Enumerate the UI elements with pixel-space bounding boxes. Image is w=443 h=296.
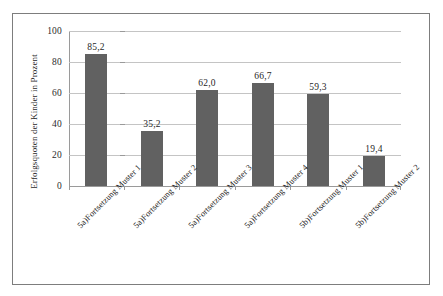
bar-5[interactable]: 19,4 [363,156,385,186]
y-tick-mark-60 [120,93,125,94]
bar-4[interactable]: 59,3 [307,94,329,186]
y-tick-label-60: 60 [52,88,62,98]
y-tick-label-40: 40 [52,119,62,129]
bar-3[interactable]: 66,7 [252,83,274,186]
y-tick-label-0: 0 [57,181,62,191]
y-axis-title: Erfolgsquoten der Kinder in Prozent [29,44,43,199]
y-tick-label-20: 20 [52,150,62,160]
y-tick-label-80: 80 [52,57,62,67]
bar-0[interactable]: 85,2 [85,54,107,186]
bar-2[interactable]: 62,0 [196,90,218,186]
bar-value-5: 19,4 [365,144,382,154]
gridline-20 [69,155,401,156]
bar-1[interactable]: 35,2 [141,131,163,186]
plot-area: 100 80 60 40 20 0 [69,31,401,186]
y-tick-mark-40 [120,124,125,125]
bar-value-0: 85,2 [87,42,104,52]
figure: Erfolgsquoten der Kinder in Prozent 100 … [0,0,443,296]
bar-value-3: 66,7 [254,71,271,81]
gridline-40 [69,124,401,125]
bar-value-2: 62,0 [198,78,215,88]
y-tick-mark-80 [120,62,125,63]
y-tick-label-100: 100 [47,26,62,36]
gridline-60 [69,93,401,94]
y-tick-mark-20 [120,155,125,156]
bar-value-1: 35,2 [143,119,160,129]
x-tick-mark-0 [69,186,70,190]
gridline-80 [69,62,401,63]
chart-frame: Erfolgsquoten der Kinder in Prozent 100 … [12,13,430,285]
bar-value-4: 59,3 [309,82,326,92]
y-tick-mark-100 [120,31,125,32]
gridline-100 [69,31,401,32]
